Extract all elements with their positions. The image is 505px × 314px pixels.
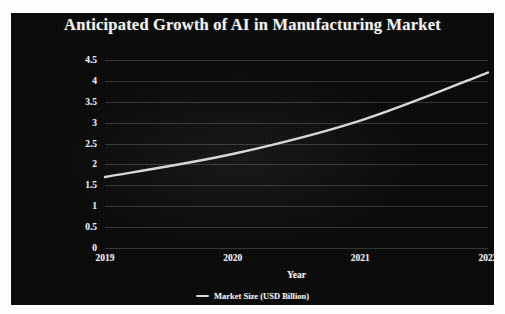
y-axis-tick-label: 3 [92,118,97,128]
x-axis-tick-label: 2020 [223,253,242,263]
y-axis-tick-label: 2.5 [85,139,97,149]
x-axis-tick-label: 2021 [351,253,370,263]
y-axis-tick-label: 0 [92,243,97,253]
series-line-market-size-usd-billion [105,73,488,177]
x-axis-tick-label: 2022 [479,253,495,263]
plot-area [105,60,488,248]
y-axis-tick-label: 0.5 [85,222,97,232]
y-axis-tick-label: 3.5 [85,97,97,107]
y-axis-tick-label: 4.5 [85,55,97,65]
legend-label: Market Size (USD Billion) [214,291,309,301]
page-background: Anticipated Growth of AI in Manufacturin… [0,0,505,314]
y-axis-tick-label: 4 [92,76,97,86]
chart-legend: Market Size (USD Billion) [11,291,494,301]
x-axis-tick-label: 2019 [96,253,115,263]
y-axis-tick-label: 1 [92,201,97,211]
chart-title: Anticipated Growth of AI in Manufacturin… [11,15,494,35]
x-axis-title: Year [105,270,488,280]
data-series-line [105,60,488,248]
line-marker-icon [196,295,209,298]
y-axis-tick-labels: 00.511.522.533.544.5 [61,60,97,248]
chart-panel: Anticipated Growth of AI in Manufacturin… [11,13,494,305]
x-axis-tick-labels: 2019202020212022 [105,253,488,267]
gridline [105,248,488,249]
y-axis-tick-label: 2 [92,159,97,169]
y-axis-tick-label: 1.5 [85,180,97,190]
